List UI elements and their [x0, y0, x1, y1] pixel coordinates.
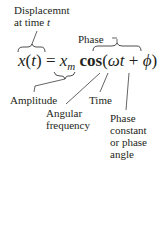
phase-const-line1: Phase: [110, 112, 147, 124]
angular-line2: frequency: [46, 119, 90, 131]
phase-const-line2: constant: [110, 124, 147, 136]
phase-const-line3: or phase: [110, 136, 147, 148]
angular-line1: Angular: [46, 107, 90, 119]
phase-const-line4: angle: [110, 148, 147, 160]
phase-constant-label: Phase constant or phase angle: [110, 112, 147, 160]
amplitude-label: Amplitude: [10, 94, 57, 106]
time-label: Time: [89, 94, 112, 106]
angular-frequency-label: Angular frequency: [46, 107, 90, 131]
